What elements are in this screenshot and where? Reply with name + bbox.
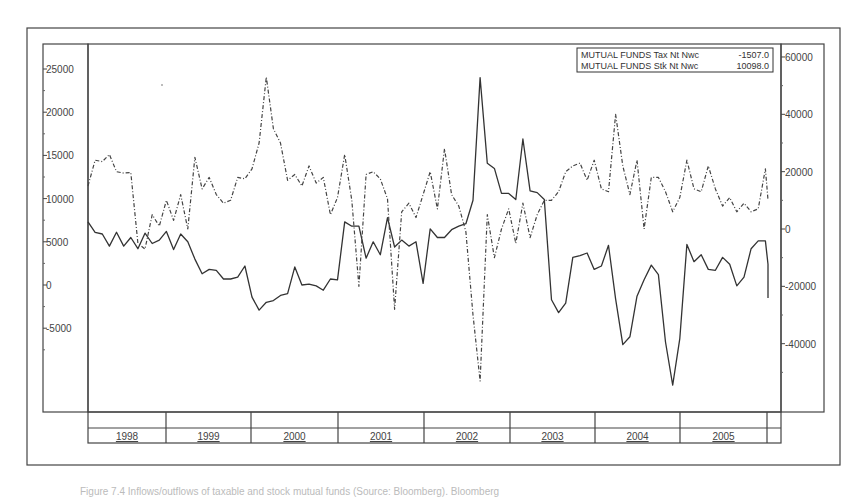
legend-label-stk: MUTUAL FUNDS Stk Nt Nwc [581, 61, 699, 71]
left-axis-panel [43, 44, 88, 412]
stray-dot [161, 84, 163, 86]
chart: 19981999200020012002200320042005 2500020… [0, 0, 863, 497]
left-tick-label: -5000 [46, 323, 72, 334]
x-tick-label: 2005 [712, 431, 735, 442]
right-tick-label: 0 [785, 224, 791, 235]
left-tick-label: 25000 [46, 64, 74, 75]
right-tick-label: 40000 [785, 109, 813, 120]
right-tick-label: -20000 [785, 281, 817, 292]
x-tick-label: 1998 [116, 431, 139, 442]
legend-value-tax: -1507.0 [738, 50, 769, 60]
right-y-axis: 6000040000200000-20000-40000 [781, 52, 817, 372]
left-tick-label: 15000 [46, 150, 74, 161]
series-tax-line [88, 78, 768, 386]
left-tick-label: 10000 [46, 194, 74, 205]
right-tick-label: 20000 [785, 167, 813, 178]
left-tick-label: 20000 [46, 107, 74, 118]
left-tick-label: 0 [46, 280, 52, 291]
x-tick-label: 2001 [370, 431, 393, 442]
figure-caption: Figure 7.4 Inflows/outflows of taxable a… [80, 486, 800, 497]
outer-frame [27, 28, 840, 465]
right-tick-label: -40000 [785, 339, 817, 350]
legend-label-tax: MUTUAL FUNDS Tax Nt Nwc [581, 50, 700, 60]
x-tick-label: 2002 [456, 431, 479, 442]
legend-value-stk: 10098.0 [736, 61, 769, 71]
x-tick-label: 1999 [197, 431, 220, 442]
x-tick-label: 2003 [541, 431, 564, 442]
left-tick-label: 5000 [46, 237, 69, 248]
series-stk-line [88, 77, 768, 381]
right-tick-label: 60000 [785, 52, 813, 63]
left-y-axis: 2500020000150001000050000-5000 [43, 64, 74, 350]
x-tick-label: 2000 [283, 431, 306, 442]
x-tick-label: 2004 [626, 431, 649, 442]
legend: MUTUAL FUNDS Tax Nt Nwc -1507.0 MUTUAL F… [577, 48, 773, 72]
